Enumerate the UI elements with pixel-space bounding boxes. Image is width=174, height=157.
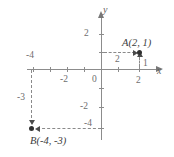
x-tick-neg2 <box>67 67 68 72</box>
x-tick-label-pos2: 2 <box>136 76 141 86</box>
y-tick-label-pos2: 2 <box>84 29 89 39</box>
y-tick-neg1 <box>99 88 104 89</box>
y-tick-neg2 <box>99 107 104 108</box>
drop-label-b: -3 <box>17 93 25 103</box>
coordinate-plane-figure: x y -4 -2 0 2 2 -2 2 1 A(2, 1) -3 -4 B(-… <box>0 0 174 157</box>
x-tick-label-neg4: -4 <box>26 51 34 61</box>
y-axis-label: y <box>103 5 107 15</box>
x-tick-label-neg2: -2 <box>60 75 68 85</box>
dashed-run-arrow-b-icon <box>35 126 40 132</box>
point-a-label: A(2, 1) <box>122 38 151 49</box>
point-b-dot <box>29 126 34 131</box>
y-tick-label-neg2: -2 <box>80 102 88 112</box>
point-b-label: B(-4, -3) <box>30 136 66 147</box>
x-tick-neg3 <box>50 67 51 72</box>
x-tick-neg4 <box>33 67 34 72</box>
x-tick-pos2 <box>139 67 140 72</box>
run-label-a: 2 <box>115 55 120 65</box>
run-label-b: -4 <box>84 119 92 129</box>
dashed-rise-line-a <box>139 57 140 67</box>
point-a-dot <box>137 50 142 55</box>
x-tick-label-zero: 0 <box>92 75 97 85</box>
rise-label-a: 1 <box>143 59 148 69</box>
x-tick-pos1 <box>118 67 119 72</box>
dashed-run-line-a <box>104 52 135 53</box>
x-tick-neg1 <box>84 67 85 72</box>
x-axis-label: x <box>157 66 161 76</box>
dashed-drop-line-b <box>31 70 32 123</box>
dashed-drop-arrow-b-icon <box>29 120 35 125</box>
y-tick-pos2 <box>99 34 104 35</box>
